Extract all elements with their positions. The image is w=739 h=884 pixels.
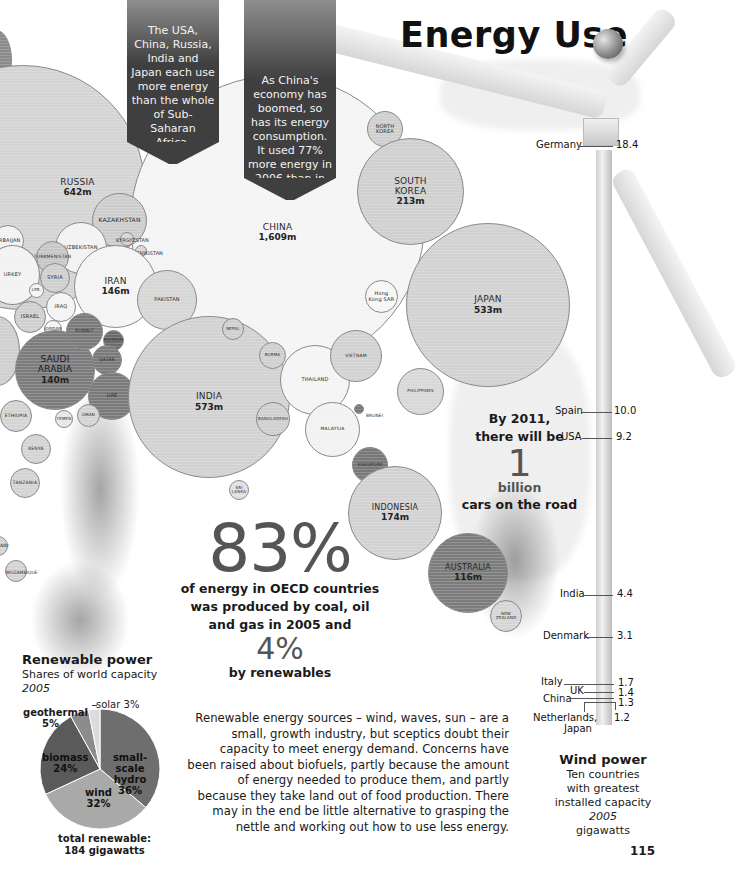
bubble-syria: SYRIA <box>40 263 70 293</box>
bubble-lebanon: LEB. <box>29 283 44 298</box>
bubble-japan: JAPAN 533m <box>406 223 570 387</box>
renewable-title: Renewable power <box>22 652 157 668</box>
wind-row-italy: Italy <box>541 676 563 687</box>
leader-line <box>583 595 613 596</box>
wind-value-germany: 18.4 <box>616 139 638 150</box>
turbine-blade <box>609 166 738 380</box>
wind-row-japan: Japan <box>564 723 592 734</box>
leader-line <box>582 438 612 439</box>
bubble-malaysia: MALAYSIA <box>305 402 360 457</box>
wind-row-denmark: Denmark <box>543 630 589 641</box>
bubble-south-korea: SOUTH KOREA 213m <box>357 138 464 245</box>
wind-power-title: Wind power <box>553 752 653 768</box>
bubble-philippines: PHILIPPINES <box>397 368 444 415</box>
leader-line <box>584 692 614 693</box>
renewable-heading: Renewable power Shares of world capacity… <box>22 652 157 696</box>
label-mozambique: MOZAMBIQUE <box>6 570 38 575</box>
wind-row-china: China <box>543 693 572 704</box>
body-paragraph: Renewable energy sources – wind, waves, … <box>187 711 509 835</box>
leader-line <box>585 637 613 638</box>
wind-row-germany: Germany <box>536 139 582 150</box>
wind-value-usa: 9.2 <box>616 431 632 442</box>
wind-row-india: India <box>560 588 585 599</box>
bubble-india: INDIA 573m <box>128 316 290 478</box>
page-number: 115 <box>630 844 655 858</box>
label-malawi: AWI <box>0 543 9 548</box>
banner-china-fact: As China's economy has boomed, so has it… <box>244 0 336 178</box>
pie-total: total renewable: 184 gigawatts <box>58 833 151 857</box>
bubble-hong-kong: Hong Kong SAR <box>365 280 398 313</box>
leader-line <box>615 702 616 710</box>
bubble-qatar: QATAR <box>92 345 122 375</box>
pie-label-geothermal: geothermal <box>23 707 88 718</box>
oecd-stat-big: 83% <box>150 518 410 580</box>
bubble-vietnam: VIETNAM <box>330 330 382 382</box>
bubble-new-zealand: NEW ZEALAND <box>490 600 522 632</box>
bubble-yemen: YEMEN <box>55 410 73 428</box>
wind-power-caption: Wind power Ten countries with greatest i… <box>553 752 653 838</box>
wind-row-spain: Spain <box>555 405 583 416</box>
pie-label-biomass: biomass 24% <box>42 752 89 774</box>
wind-row-netherlands: Netherlands, <box>533 712 597 723</box>
label-brunei: BRUNEI <box>366 413 383 418</box>
bubble-oman: OMAN <box>77 404 100 427</box>
leader-line <box>584 702 585 712</box>
pie-label-wind: wind 32% <box>85 787 112 809</box>
leader-line <box>582 412 612 413</box>
bubble-burma: BURMA <box>259 342 286 369</box>
wind-row-usa: USA <box>561 431 582 442</box>
wind-value-denmark: 3.1 <box>617 630 633 641</box>
wind-value-china: 1.3 <box>618 697 634 708</box>
oecd-stat: 83% of energy in OECD countries was prod… <box>150 518 410 682</box>
bubble-kenya: KENYA <box>21 434 51 464</box>
bubble-australia: AUSTRALIA 116m <box>428 533 508 613</box>
turbine-hub <box>583 118 619 146</box>
wind-row-uk: UK <box>570 685 584 696</box>
leader-line <box>570 698 614 699</box>
bubble-tanzania: TANZANIA <box>10 468 40 498</box>
cars-stat: By 2011, there will be 1 billion cars on… <box>452 410 587 514</box>
bubble-israel: ISRAEL <box>14 301 46 333</box>
globe-icon <box>593 29 623 59</box>
bubble-nepal: NEPAL <box>222 318 244 340</box>
oecd-stat-renewable: 4% <box>150 634 410 664</box>
wind-value-spain: 10.0 <box>614 405 636 416</box>
pie-label-geothermal-pct: 5% <box>42 718 59 729</box>
leader-line <box>578 146 613 147</box>
bubble-ethiopia: ETHIOPIA <box>0 400 32 432</box>
bubble-bangladesh: BANGLADESH <box>256 402 290 436</box>
banner-africa-fact: The USA, China, Russia, India and Japan … <box>127 0 219 142</box>
pie-leader <box>92 705 97 706</box>
bubble-brunei <box>354 404 364 414</box>
bubble-sri-lanka: SRI LANKA <box>229 480 249 500</box>
leader-line <box>584 702 616 703</box>
wind-value-india: 4.4 <box>617 588 633 599</box>
pie-label-solar: solar 3% <box>96 699 139 710</box>
cars-stat-number: 1 <box>452 446 587 480</box>
label-kyrgyzstan: KYRGYZSTAN <box>116 237 149 243</box>
bubble-kuwait: KUWAIT <box>66 313 103 350</box>
wind-value-netherlands-japan: 1.2 <box>614 712 630 723</box>
